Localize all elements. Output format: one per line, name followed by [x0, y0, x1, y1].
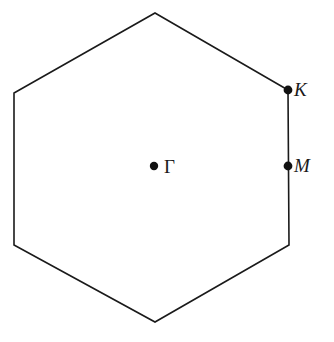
m-point-label: M — [294, 156, 310, 175]
k-point-label: K — [294, 80, 307, 99]
brillouin-zone-figure: Γ K M — [0, 0, 334, 342]
gamma-point-label: Γ — [164, 157, 175, 176]
m-point-dot — [284, 162, 293, 171]
k-point-dot — [284, 86, 293, 95]
gamma-point-dot — [150, 162, 158, 170]
